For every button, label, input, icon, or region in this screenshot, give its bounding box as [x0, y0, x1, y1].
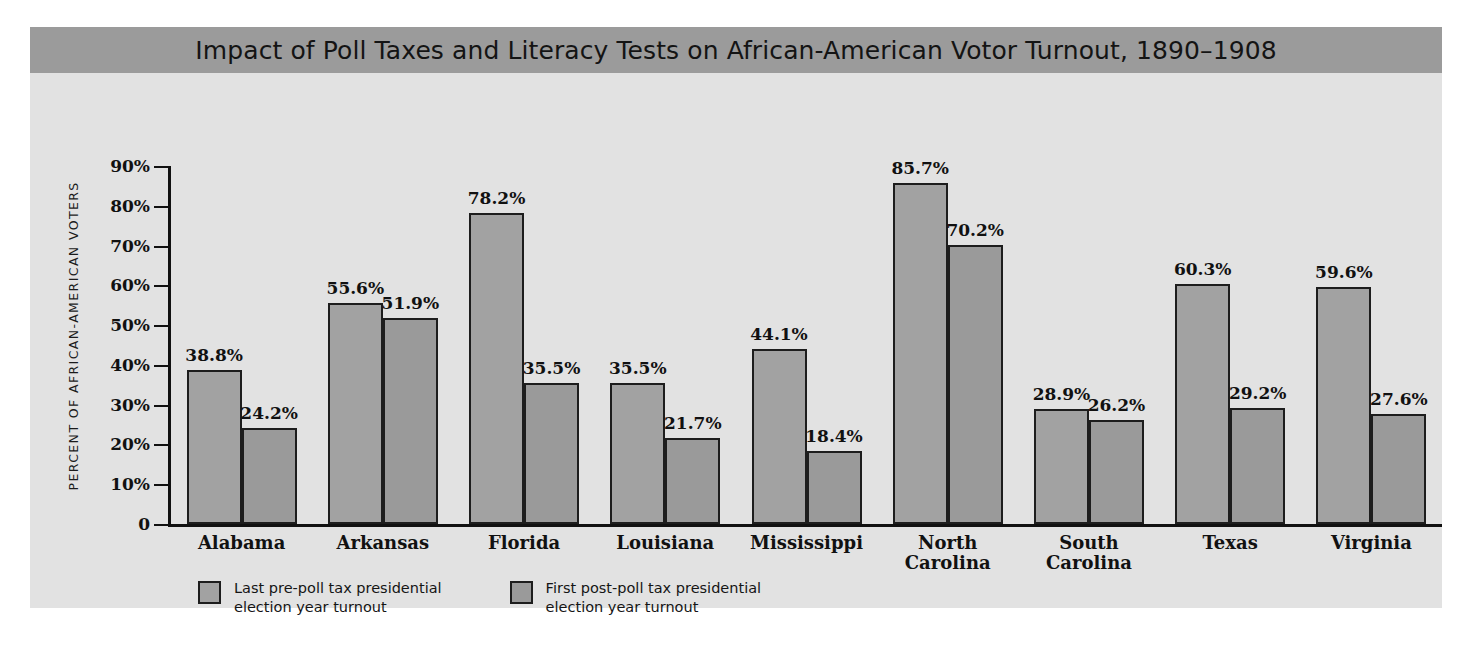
- bar[interactable]: [1034, 409, 1089, 524]
- bar[interactable]: [1089, 420, 1144, 524]
- bar-value-label: 85.7%: [891, 160, 949, 177]
- bar[interactable]: [187, 370, 242, 524]
- x-axis-label: Florida: [453, 533, 594, 553]
- bar-value-label: 24.2%: [240, 405, 298, 422]
- bar-value-label: 27.6%: [1370, 391, 1428, 408]
- bar-value-label: 35.5%: [523, 360, 581, 377]
- chart-legend: Last pre-poll tax presidential election …: [198, 579, 761, 616]
- y-tick-mark: [154, 365, 168, 367]
- legend-label: First post-poll tax presidential electio…: [546, 579, 761, 616]
- y-tick-label: 40%: [110, 357, 150, 374]
- legend-swatch: [198, 581, 221, 604]
- bar[interactable]: [610, 383, 665, 524]
- y-tick-label: 90%: [110, 158, 150, 175]
- bar-value-label: 38.8%: [185, 347, 243, 364]
- x-axis-line: [168, 524, 1442, 527]
- y-tick-mark: [154, 444, 168, 446]
- x-axis-label: SouthCarolina: [1018, 533, 1159, 573]
- y-tick-label: 10%: [110, 476, 150, 493]
- bar-value-label: 60.3%: [1174, 261, 1232, 278]
- bar[interactable]: [893, 183, 948, 524]
- y-tick-label: 70%: [110, 238, 150, 255]
- bar[interactable]: [524, 383, 579, 524]
- plot-area: PERCENT OF AFRICAN-AMERICAN VOTERS 90%80…: [30, 73, 1442, 608]
- x-axis-label: Mississippi: [736, 533, 877, 553]
- x-axis-category-labels: AlabamaArkansasFloridaLouisianaMississip…: [171, 533, 1442, 581]
- y-tick-label: 80%: [110, 198, 150, 215]
- bar[interactable]: [665, 438, 720, 524]
- legend-entry[interactable]: First post-poll tax presidential electio…: [510, 579, 761, 616]
- bar[interactable]: [383, 318, 438, 524]
- y-tick-mark: [154, 325, 168, 327]
- bar[interactable]: [1316, 287, 1371, 524]
- bar[interactable]: [807, 451, 862, 524]
- bar-group: 38.8%24.2%: [187, 166, 297, 524]
- y-tick-mark: [154, 246, 168, 248]
- bar[interactable]: [469, 213, 524, 524]
- bar-group: 78.2%35.5%: [469, 166, 579, 524]
- bar-value-label: 18.4%: [805, 428, 863, 445]
- bar-group: 44.1%18.4%: [752, 166, 862, 524]
- legend-label: Last pre-poll tax presidential election …: [234, 579, 442, 616]
- x-axis-label: Texas: [1160, 533, 1301, 553]
- bar-value-label: 51.9%: [382, 295, 440, 312]
- bar-value-label: 29.2%: [1229, 385, 1287, 402]
- bar-value-label: 26.2%: [1088, 397, 1146, 414]
- bar[interactable]: [1371, 414, 1426, 524]
- bar-group: 85.7%70.2%: [893, 166, 1003, 524]
- y-tick-mark: [154, 484, 168, 486]
- bar[interactable]: [948, 245, 1003, 524]
- x-axis-label: Virginia: [1301, 533, 1442, 553]
- chart-panel: Impact of Poll Taxes and Literacy Tests …: [30, 27, 1442, 608]
- x-axis-label: Alabama: [171, 533, 312, 553]
- y-tick-label: 60%: [110, 277, 150, 294]
- y-tick-mark: [154, 405, 168, 407]
- y-tick-label: 20%: [110, 436, 150, 453]
- chart-title-band: Impact of Poll Taxes and Literacy Tests …: [30, 27, 1442, 73]
- y-tick-mark: [154, 206, 168, 208]
- bar-group: 59.6%27.6%: [1316, 166, 1426, 524]
- bar-value-label: 35.5%: [609, 360, 667, 377]
- x-axis-label: Arkansas: [312, 533, 453, 553]
- legend-entry[interactable]: Last pre-poll tax presidential election …: [198, 579, 442, 616]
- figure: Impact of Poll Taxes and Literacy Tests …: [0, 0, 1477, 645]
- bar-value-label: 55.6%: [327, 280, 385, 297]
- bar[interactable]: [242, 428, 297, 524]
- legend-swatch: [510, 581, 533, 604]
- bar[interactable]: [752, 349, 807, 524]
- bar[interactable]: [1175, 284, 1230, 524]
- chart-title: Impact of Poll Taxes and Literacy Tests …: [195, 36, 1276, 65]
- bar-group: 55.6%51.9%: [328, 166, 438, 524]
- x-axis-label: NorthCarolina: [877, 533, 1018, 573]
- bar-value-label: 21.7%: [664, 415, 722, 432]
- bar-value-label: 28.9%: [1033, 386, 1091, 403]
- bar-value-label: 59.6%: [1315, 264, 1373, 281]
- y-tick-label: 0: [138, 516, 150, 533]
- y-tick-label: 50%: [110, 317, 150, 334]
- y-tick-mark: [154, 166, 168, 168]
- y-tick-mark: [154, 524, 168, 526]
- bar[interactable]: [328, 303, 383, 524]
- bar-value-label: 44.1%: [750, 326, 808, 343]
- bar-value-label: 70.2%: [946, 222, 1004, 239]
- bar-group: 35.5%21.7%: [610, 166, 720, 524]
- bar-group: 28.9%26.2%: [1034, 166, 1144, 524]
- y-tick-mark: [154, 285, 168, 287]
- bar[interactable]: [1230, 408, 1285, 524]
- y-tick-label: 30%: [110, 397, 150, 414]
- x-axis-label: Louisiana: [595, 533, 736, 553]
- bar-value-label: 78.2%: [468, 190, 526, 207]
- bar-group: 60.3%29.2%: [1175, 166, 1285, 524]
- y-axis-title: PERCENT OF AFRICAN-AMERICAN VOTERS: [66, 191, 81, 491]
- bars-layer: 38.8%24.2%55.6%51.9%78.2%35.5%35.5%21.7%…: [171, 166, 1442, 524]
